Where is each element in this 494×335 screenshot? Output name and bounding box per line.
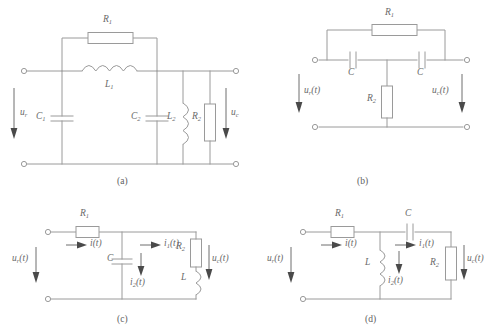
- arrow-b-uc-head: [459, 102, 466, 113]
- terminal-d-input-bottom: [300, 296, 305, 301]
- panel-a-schematic: [0, 0, 247, 195]
- arrow-b-ur-head: [296, 102, 303, 113]
- arrow-d-i1-head: [406, 242, 416, 249]
- label-d-R1: R1: [335, 209, 344, 219]
- panel-b: R1 C C R2 ur(t) uc(t) (b): [247, 0, 494, 195]
- inductor-a-L1: [82, 66, 137, 72]
- arrow-d-ur-head: [288, 272, 295, 283]
- caption-c: (c): [117, 314, 128, 324]
- resistor-c-R1: [76, 227, 99, 238]
- arrow-a-ur-head: [11, 128, 18, 139]
- label-a-R1: R1: [103, 15, 112, 25]
- label-c-current-i1: i1(t): [164, 239, 179, 249]
- label-d-output-voltage: uc(t): [467, 254, 484, 264]
- inductor-a-L2: [183, 103, 189, 144]
- panel-d: R1 C L R2 i(t) i1(t) i2(t) ur(t) uc(t) (…: [247, 195, 494, 335]
- arrow-d-i-head: [332, 242, 342, 249]
- arrow-c-i1-head: [151, 242, 161, 249]
- terminal-a-input-top: [21, 68, 26, 73]
- label-a-C1: C1: [36, 112, 46, 122]
- terminal-a-input-bottom: [21, 161, 26, 166]
- caption-b: (b): [357, 176, 368, 186]
- terminal-a-output-top: [233, 68, 238, 73]
- label-d-input-voltage: ur(t): [267, 254, 283, 264]
- caption-a: (a): [117, 176, 128, 186]
- terminal-a-output-bottom: [233, 161, 238, 166]
- terminal-b-input-bottom: [312, 124, 317, 129]
- terminal-b-output-bottom: [464, 124, 469, 129]
- label-d-current-i2: i2(t): [388, 276, 403, 286]
- label-d-R2: R2: [430, 258, 439, 268]
- terminal-d-input-top: [300, 229, 305, 234]
- label-b-input-voltage: ur(t): [304, 86, 320, 96]
- label-c-input-voltage: ur(t): [12, 254, 28, 264]
- resistor-c-R2: [191, 239, 202, 267]
- label-a-output-voltage: uc: [231, 108, 239, 118]
- resistor-d-R1: [331, 227, 354, 238]
- label-b-C-right: C: [417, 68, 423, 78]
- arrow-c-i-head: [77, 242, 87, 249]
- label-a-input-voltage: ur: [20, 108, 27, 118]
- label-a-L1: L1: [105, 80, 114, 90]
- inductor-c-L: [196, 271, 201, 295]
- wire-b-R1-right: [417, 30, 445, 60]
- wire-a-R1-right: [133, 38, 157, 71]
- panel-c: R1 C R2 L i(t) i1(t) i2(t) ur(t) uc(t) (…: [0, 195, 247, 335]
- arrow-c-ur-head: [33, 272, 40, 283]
- label-c-current-i: i(t): [90, 239, 102, 249]
- caption-d: (d): [365, 314, 376, 324]
- arrow-c-uc-head: [206, 269, 213, 280]
- label-c-R1: R1: [80, 209, 89, 219]
- resistor-a-R2: [205, 104, 216, 141]
- resistor-b-R1: [372, 25, 417, 36]
- arrow-a-uc-head: [223, 128, 230, 139]
- label-a-R2: R2: [192, 112, 201, 122]
- label-a-L2: L2: [167, 112, 176, 122]
- terminal-c-input-top: [45, 229, 50, 234]
- wire-a-R1-left: [62, 38, 88, 71]
- arrow-d-i2-head: [396, 264, 403, 274]
- arrow-c-i2-head: [138, 266, 145, 276]
- circuit-figure: R1 L1 C1 C2 L2 R2 ur uc (a): [0, 0, 494, 335]
- label-d-current-i: i(t): [345, 239, 357, 249]
- arrow-d-uc-head: [461, 269, 468, 280]
- terminal-c-input-bottom: [45, 296, 50, 301]
- label-b-R1: R1: [385, 8, 394, 18]
- resistor-a-R1: [88, 33, 133, 44]
- label-c-L: L: [181, 273, 186, 283]
- label-a-C2: C2: [131, 112, 141, 122]
- terminal-b-input-top: [312, 57, 317, 62]
- resistor-b-R2: [382, 86, 393, 118]
- label-b-output-voltage: uc(t): [432, 86, 449, 96]
- label-d-L: L: [365, 258, 370, 268]
- label-b-C-left: C: [348, 68, 354, 78]
- resistor-d-R2: [446, 247, 457, 280]
- label-c-C: C: [107, 254, 113, 264]
- panel-a: R1 L1 C1 C2 L2 R2 ur uc (a): [0, 0, 247, 195]
- label-d-C: C: [405, 209, 411, 219]
- inductor-d-L: [380, 250, 385, 286]
- label-c-current-i2: i2(t): [130, 278, 145, 288]
- label-b-R2: R2: [367, 94, 376, 104]
- terminal-b-output-top: [464, 57, 469, 62]
- label-c-output-voltage: uc(t): [212, 254, 229, 264]
- label-d-current-i1: i1(t): [419, 239, 434, 249]
